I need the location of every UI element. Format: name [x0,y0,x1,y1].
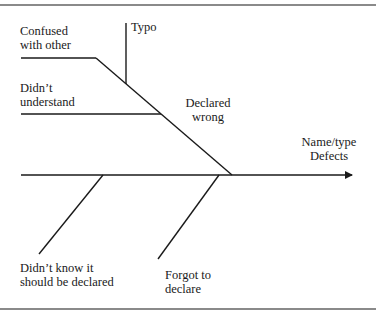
label-line: should be declared [20,275,114,289]
label-line: Typo [131,20,157,34]
label-forgot-to-declare: Forgot to declare [165,268,211,296]
label-line: wrong [174,110,242,124]
label-line: Didn’t [20,81,75,95]
label-effect-name-type-defects: Name/type Defects [290,135,368,163]
label-line: Declared [174,96,242,110]
label-declared-wrong: Declared wrong [174,96,242,124]
label-line: understand [20,95,75,109]
label-line: Confused [20,24,71,38]
label-line: Defects [290,149,368,163]
label-didnt-know-should-be-declared: Didn’t know it should be declared [20,261,114,289]
label-line: Name/type [290,135,368,149]
diagram-frame: Confused with other Typo Didn’t understa… [0,0,376,316]
didnt-know-branch-line [39,175,103,254]
label-line: Forgot to [165,268,211,282]
label-confused-with-other: Confused with other [20,24,71,52]
label-line: Didn’t know it [20,261,114,275]
label-line: with other [20,38,71,52]
label-typo: Typo [131,20,157,34]
label-line: declare [165,282,211,296]
label-didnt-understand: Didn’t understand [20,81,75,109]
forgot-branch-line [158,175,219,259]
